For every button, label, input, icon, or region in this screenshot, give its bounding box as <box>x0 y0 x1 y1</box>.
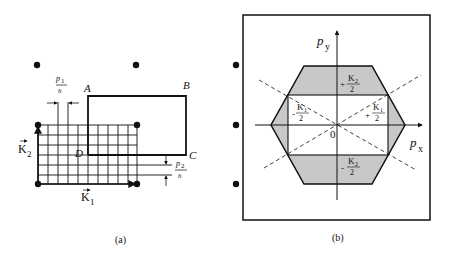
svg-text:K: K <box>18 142 27 156</box>
svg-text:ħ: ħ <box>58 87 62 95</box>
svg-text:-: - <box>292 109 295 119</box>
origin-label: 0 <box>330 128 336 140</box>
svg-text:+: + <box>340 79 345 89</box>
vertex-label-c: C <box>189 149 197 161</box>
svg-text:p: p <box>175 159 180 168</box>
svg-text:2: 2 <box>355 78 358 84</box>
lattice-dot <box>34 62 40 68</box>
vertex-label-d: D <box>74 147 83 159</box>
k2-label: K 2 <box>18 141 32 159</box>
svg-text:1: 1 <box>61 77 65 85</box>
caption-a: (a) <box>115 234 126 246</box>
svg-text:K: K <box>348 73 355 83</box>
lattice-dot <box>233 181 239 187</box>
px-axis-label: p x <box>409 135 423 154</box>
svg-text:y: y <box>325 41 330 52</box>
svg-text:2: 2 <box>350 85 354 94</box>
svg-text:K: K <box>81 190 90 204</box>
svg-text:p: p <box>55 74 60 83</box>
svg-text:2: 2 <box>27 149 32 159</box>
vertex-label-a: A <box>83 82 91 94</box>
lattice-dot <box>233 122 239 128</box>
figure-canvas: A B C D p 1 ħ p 2 ħ K 1 K 2 (a) <box>0 0 452 261</box>
panel-a: A B C D p 1 ħ p 2 ħ K 1 K 2 (a) <box>18 62 197 246</box>
svg-text:+: + <box>365 110 370 120</box>
svg-text:2: 2 <box>181 162 185 170</box>
lattice-dot <box>233 62 239 68</box>
p1-over-hbar-label: p 1 ħ <box>55 74 67 95</box>
svg-text:x: x <box>418 143 423 154</box>
svg-text:-: - <box>341 163 344 173</box>
k1-label: K 1 <box>81 190 95 207</box>
caption-b: (b) <box>332 232 344 244</box>
svg-text:p: p <box>316 33 324 48</box>
svg-text:2: 2 <box>375 114 379 123</box>
svg-text:ħ: ħ <box>178 172 182 180</box>
py-axis-label: p y <box>316 33 330 52</box>
vertex-label-b: B <box>183 79 190 91</box>
svg-text:1: 1 <box>90 197 95 207</box>
lattice-dot <box>133 62 139 68</box>
svg-text:p: p <box>409 135 417 150</box>
svg-text:1: 1 <box>304 107 307 113</box>
p2-over-hbar-label: p 2 ħ <box>175 159 187 180</box>
svg-text:2: 2 <box>355 161 358 167</box>
svg-text:2: 2 <box>299 114 303 123</box>
svg-text:K: K <box>348 156 355 166</box>
svg-text:K: K <box>297 102 304 112</box>
svg-text:1: 1 <box>380 107 383 113</box>
svg-text:K: K <box>373 102 380 112</box>
panel-b: p y p x 0 + K 2 2 - K 2 2 - K 1 <box>233 15 430 244</box>
svg-text:2: 2 <box>350 168 354 177</box>
